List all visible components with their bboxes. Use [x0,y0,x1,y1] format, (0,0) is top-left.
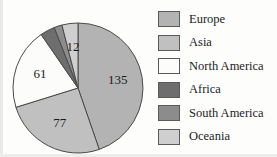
legend-item[interactable]: North America [158,55,276,77]
legend-swatch-icon [158,35,180,51]
legend-item-label: South America [189,107,264,120]
legend-item[interactable]: Asia [158,32,276,54]
pie-chart-figure: 135776111612 EuropeAsiaNorth AmericaAfri… [0,0,277,157]
pie-slice-value-label: 135 [108,72,128,87]
legend-item-label: Europe [189,13,225,26]
legend-item[interactable]: Europe [158,8,276,30]
pie-svg: 135776111612 [12,20,146,156]
legend-swatch-icon [158,105,180,121]
legend-item[interactable]: South America [158,102,276,124]
legend-item[interactable]: Oceania [158,126,276,148]
legend-swatch-icon [158,82,180,98]
legend: EuropeAsiaNorth AmericaAfricaSouth Ameri… [158,8,276,153]
pie-slice-value-label: 77 [53,115,67,130]
legend-item-label: North America [189,60,264,73]
legend-item-label: Africa [189,83,221,96]
pie-chart-area: 135776111612 [12,20,146,156]
pie-slice-value-label: 61 [33,66,46,81]
legend-item-label: Asia [189,36,212,49]
legend-item-label: Oceania [189,130,230,143]
scan-edge-left [0,0,3,157]
legend-item[interactable]: Africa [158,79,276,101]
legend-swatch-icon [158,58,180,74]
legend-swatch-icon [158,11,180,27]
legend-swatch-icon [158,129,180,145]
pie-slice-value-label: 12 [67,39,80,54]
